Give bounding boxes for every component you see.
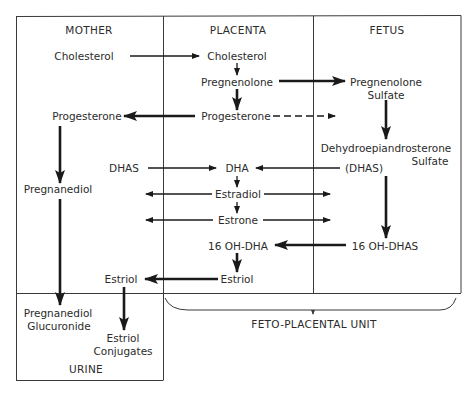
node-mother-dhas: DHAS [109,162,139,174]
node-estriol-conjugates-line2: Conjugates [93,345,152,357]
node-placenta-cholesterol: Cholesterol [207,50,266,62]
node-placenta-16oh-dha: 16 OH-DHA [208,240,268,252]
node-pregnanediol-glucuronide-line2: Glucuronide [27,320,90,332]
feto-placental-brace [165,298,456,310]
node-mother-progesterone: Progesterone [52,110,121,122]
node-placenta-progesterone: Progesterone [201,110,270,122]
node-fetus-dhas-abbreviation: (DHAS) [345,162,383,174]
node-placenta-estriol: Estriol [221,273,254,285]
header-urine: URINE [69,363,103,375]
node-placenta-estrone: Estrone [218,214,258,226]
node-fetus-16oh-dhas: 16 OH-DHAS [352,240,418,252]
node-mother-pregnanediol: Pregnanediol [24,183,93,195]
node-mother-estriol: Estriol [105,273,138,285]
header-placenta: PLACENTA [210,24,266,36]
node-fetus-pregnenolone-sulfate-line1: Pregnenolone [350,76,422,88]
label-feto-placental-unit: FETO-PLACENTAL UNIT [251,318,376,330]
node-fetus-dheas-line2: Sulfate [412,155,449,167]
node-mother-cholesterol: Cholesterol [54,50,113,62]
node-pregnanediol-glucuronide-line1: Pregnanediol [24,307,93,319]
node-fetus-dheas-line1: Dehydroepiandrosterone [321,142,452,154]
header-mother: MOTHER [65,24,112,36]
node-fetus-pregnenolone-sulfate-line2: Sulfate [368,89,405,101]
node-placenta-estradiol: Estradiol [215,188,261,200]
node-placenta-pregnenolone: Pregnenolone [201,76,273,88]
header-fetus: FETUS [370,24,405,36]
feto-placental-steroid-diagram: MOTHER PLACENTA FETUS URINE FETO-PLACENT… [0,0,476,393]
node-estriol-conjugates-line1: Estriol [107,332,140,344]
node-placenta-dha: DHA [225,162,248,174]
